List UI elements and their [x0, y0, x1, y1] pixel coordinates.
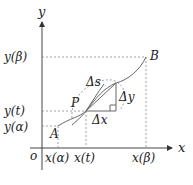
y-beta-label: y(β): [3, 50, 27, 64]
delta-y-label: Δy: [118, 90, 135, 104]
x-alpha-label: x(α): [45, 151, 70, 165]
origin-label: o: [30, 149, 37, 163]
point-p-label: P: [70, 96, 80, 110]
y-t-label: y(t): [3, 104, 25, 118]
delta-s-label: Δs: [85, 75, 101, 89]
y-axis-label: y: [37, 4, 46, 19]
point-b-label: B: [149, 49, 159, 63]
y-alpha-label: y(α): [3, 120, 29, 134]
x-axis-label: x: [178, 140, 186, 155]
right-angle-mark: [110, 105, 116, 111]
x-t-label: x(t): [74, 151, 95, 165]
x-beta-label: x(β): [132, 151, 155, 165]
arc-length-diagram: y x o y(β) y(t) y(α) x(α) x(t) x(β) A P …: [0, 0, 193, 185]
delta-x-label: Δx: [91, 113, 108, 127]
point-a-label: A: [49, 127, 59, 141]
